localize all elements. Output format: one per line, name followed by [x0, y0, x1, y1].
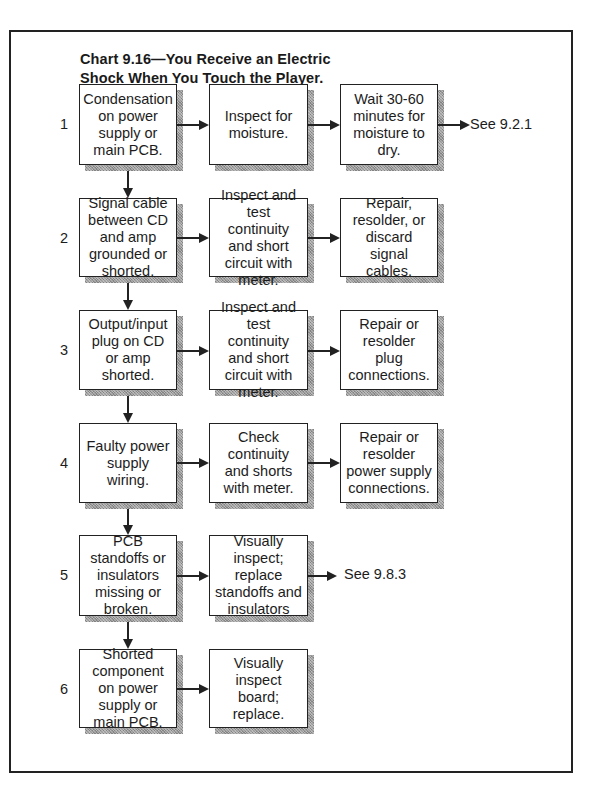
connector-arrow: [177, 575, 199, 577]
reference-see-9-2-1: See 9.2.1: [470, 116, 532, 132]
row-number: 1: [58, 116, 70, 132]
cause-box-3: Output/input plug on CD or amp shorted.: [79, 310, 177, 390]
arrowhead-right-icon: [199, 346, 209, 356]
row-number: 4: [58, 455, 70, 471]
check-box-2: Inspect and test continuity and short ci…: [209, 198, 308, 277]
check-box-3: Inspect and test continuity and short ci…: [209, 310, 308, 390]
connector-arrow: [308, 575, 328, 577]
check-box-6: Visually inspect board; replace.: [209, 649, 308, 728]
connector-arrow: [308, 124, 330, 126]
arrowhead-right-icon: [330, 458, 340, 468]
arrowhead-down-icon: [123, 413, 133, 423]
check-box-1: Inspect for moisture.: [209, 84, 308, 165]
remedy-box-2: Repair, resolder, or discard signal cabl…: [340, 198, 438, 277]
row-number: 2: [58, 230, 70, 246]
chart-title: Chart 9.16—You Receive an Electric Shock…: [80, 50, 340, 88]
connector-arrow: [308, 237, 330, 239]
check-box-4: Check continuity and shorts with meter.: [209, 423, 308, 503]
arrowhead-right-icon: [460, 120, 470, 130]
connector-arrow: [308, 350, 330, 352]
arrowhead-down-icon: [123, 300, 133, 310]
arrowhead-right-icon: [330, 120, 340, 130]
arrowhead-right-icon: [330, 233, 340, 243]
arrowhead-right-icon: [199, 684, 209, 694]
row-number: 6: [58, 681, 70, 697]
chart-title-line-1: Chart 9.16—You Receive an Electric: [80, 50, 340, 69]
arrowhead-right-icon: [327, 571, 337, 581]
cause-box-6: Shorted component on power supply or mai…: [79, 649, 177, 728]
connector-arrow: [177, 350, 199, 352]
arrowhead-right-icon: [199, 571, 209, 581]
arrowhead-right-icon: [199, 458, 209, 468]
row-number: 3: [58, 342, 70, 358]
connector-arrow: [308, 462, 330, 464]
connector-arrow: [177, 462, 199, 464]
arrowhead-right-icon: [199, 120, 209, 130]
cause-box-2: Signal cable between CD and amp grounded…: [79, 198, 177, 277]
connector-arrow: [177, 688, 199, 690]
remedy-box-4: Repair or resolder power supply connecti…: [340, 423, 438, 503]
cause-box-1: Condensation on power supply or main PCB…: [79, 84, 177, 165]
remedy-box-1: Wait 30-60 minutes for moisture to dry.: [340, 84, 438, 165]
arrowhead-right-icon: [199, 233, 209, 243]
row-number: 5: [58, 567, 70, 583]
cause-box-5: PCB standoffs or insulators missing or b…: [79, 535, 177, 616]
connector-arrow: [177, 124, 199, 126]
connector-arrow: [177, 237, 199, 239]
remedy-box-3: Repair or resolder plug connections.: [340, 310, 438, 390]
check-box-5: Visually inspect; replace standoffs and …: [209, 535, 308, 616]
arrowhead-right-icon: [330, 346, 340, 356]
cause-box-4: Faulty power supply wiring.: [79, 423, 177, 503]
connector-arrow: [438, 124, 460, 126]
reference-see-9-8-3: See 9.8.3: [344, 566, 406, 582]
